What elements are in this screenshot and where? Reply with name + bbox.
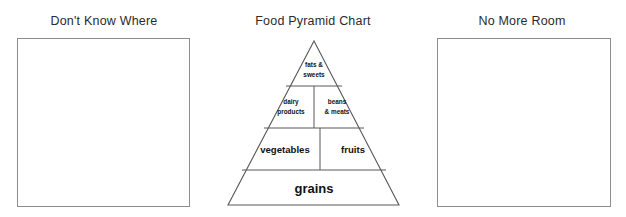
empty-placeholder-box-right[interactable] — [437, 38, 611, 207]
tier-label-fats-sweets-line1: fats & — [305, 61, 323, 68]
tier-label-dairy-products-line2: products — [277, 108, 305, 116]
tier-label-beans-meats-line2: & meats — [325, 108, 350, 115]
food-pyramid-chart: fats & sweets dairy products beans & mea… — [208, 38, 418, 210]
panel-left-title: Don't Know Where — [0, 14, 208, 28]
tier-label-vegetables: vegetables — [260, 144, 310, 155]
panel-right: No More Room — [418, 0, 626, 217]
panel-middle-title: Food Pyramid Chart — [208, 14, 418, 28]
tier-label-dairy-products-line1: dairy — [283, 98, 299, 106]
empty-placeholder-box-left[interactable] — [17, 38, 190, 207]
panel-right-title: No More Room — [418, 14, 626, 28]
panel-middle: Food Pyramid Chart fats & sweets dairy p… — [208, 0, 418, 217]
tier-label-fats-sweets-line2: sweets — [303, 71, 325, 78]
tier-label-grains: grains — [294, 181, 333, 196]
tier-label-beans-meats-line1: beans — [328, 98, 347, 105]
tier-label-fruits: fruits — [341, 144, 365, 155]
panel-left: Don't Know Where — [0, 0, 208, 217]
